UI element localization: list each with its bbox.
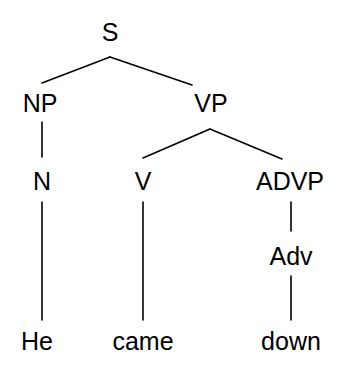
node-s: S [102,20,119,45]
node-advp: ADVP [256,169,324,194]
tree-edge-s-to-np [42,57,110,83]
tree-edge-s-to-vp [110,57,192,85]
node-n: N [33,169,51,194]
node-adv: Adv [269,244,312,269]
terminal-node-came: came [112,329,173,354]
node-np: NP [23,91,58,116]
node-vp: VP [194,91,227,116]
terminal-node-down: down [261,329,321,354]
node-v: V [135,169,152,194]
parse-tree-diagram: SNPVPNVADVPAdvHecamedown [0,0,341,372]
tree-edge-vp-to-v [143,129,210,158]
tree-edge-vp-to-advp [210,129,282,159]
terminal-node-he: He [21,329,53,354]
